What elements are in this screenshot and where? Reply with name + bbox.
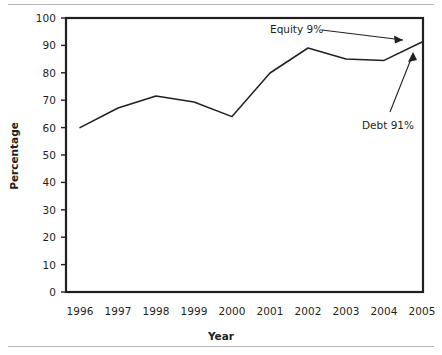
y-tick-label-100: 100 — [26, 12, 56, 24]
x-tick-label-1999: 1999 — [174, 305, 214, 317]
y-tick-label-30: 30 — [26, 204, 56, 216]
chart-figure: 100 90 80 70 60 50 40 30 20 10 0 1996 19… — [0, 0, 442, 355]
y-axis-title: Percentage — [8, 120, 20, 192]
y-tick-label-80: 80 — [26, 67, 56, 79]
y-tick-label-90: 90 — [26, 39, 56, 51]
x-tick-label-2005: 2005 — [402, 305, 442, 317]
x-tick-label-2003: 2003 — [326, 305, 366, 317]
y-tick-label-10: 10 — [26, 259, 56, 271]
x-tick-label-2002: 2002 — [288, 305, 328, 317]
x-tick-label-2001: 2001 — [250, 305, 290, 317]
plot-frame — [66, 18, 423, 292]
y-tick-label-50: 50 — [26, 149, 56, 161]
x-tick-label-2004: 2004 — [364, 305, 404, 317]
x-axis-title: Year — [0, 330, 442, 342]
x-tick-label-1998: 1998 — [136, 305, 176, 317]
y-tick-label-0: 0 — [26, 286, 56, 298]
x-tick-label-2000: 2000 — [212, 305, 252, 317]
line-chart-plot — [0, 0, 442, 355]
y-tick-label-40: 40 — [26, 176, 56, 188]
annotation-debt-label: Debt 91% — [362, 119, 414, 131]
y-tick-label-60: 60 — [26, 122, 56, 134]
annotation-equity-label: Equity 9% — [270, 23, 323, 35]
y-tick-label-20: 20 — [26, 231, 56, 243]
x-tick-label-1997: 1997 — [98, 305, 138, 317]
x-tick-label-1996: 1996 — [60, 305, 100, 317]
y-tick-label-70: 70 — [26, 94, 56, 106]
